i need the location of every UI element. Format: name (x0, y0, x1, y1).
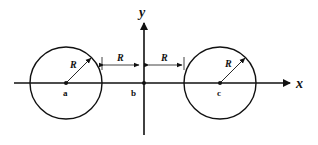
dimension-label-left: R (116, 52, 124, 63)
dimension-a-to-b: R (102, 52, 139, 70)
radius-arrow-c (220, 58, 245, 83)
x-axis: x (14, 76, 303, 91)
y-axis-label: y (137, 5, 146, 20)
dimension-b-to-c: R (149, 52, 184, 70)
y-axis: y (137, 5, 146, 135)
diagram-canvas: x y R a b R c R R (0, 0, 318, 145)
radius-label-c: R (224, 58, 232, 69)
dimension-label-right: R (160, 52, 168, 63)
point-label-b: b (131, 88, 136, 98)
point-label-c: c (217, 88, 221, 98)
point-label-a: a (63, 88, 68, 98)
x-axis-label: x (295, 76, 303, 91)
radius-label-a: R (69, 59, 77, 70)
